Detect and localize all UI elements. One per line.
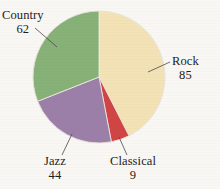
pie-label-jazz-value: 44 (44, 169, 66, 183)
pie-label-country-value: 62 (2, 23, 44, 37)
pie-label-rock-name: Rock (172, 55, 199, 69)
pie-label-classical: Classical 9 (110, 155, 156, 182)
pie-label-classical-name: Classical (110, 155, 156, 169)
pie-label-rock: Rock 85 (172, 55, 199, 82)
leader-line-jazz (62, 134, 72, 155)
leader-line-classical (119, 137, 127, 155)
pie-label-country-name: Country (2, 9, 44, 23)
pie-label-country: Country 62 (2, 9, 44, 36)
pie-label-jazz-name: Jazz (44, 155, 66, 169)
pie-label-jazz: Jazz 44 (44, 155, 66, 182)
pie-label-classical-value: 9 (110, 169, 156, 183)
pie-chart: Country 62 Rock 85 Jazz 44 Classical 9 (0, 0, 220, 189)
pie-label-rock-value: 85 (172, 69, 199, 83)
